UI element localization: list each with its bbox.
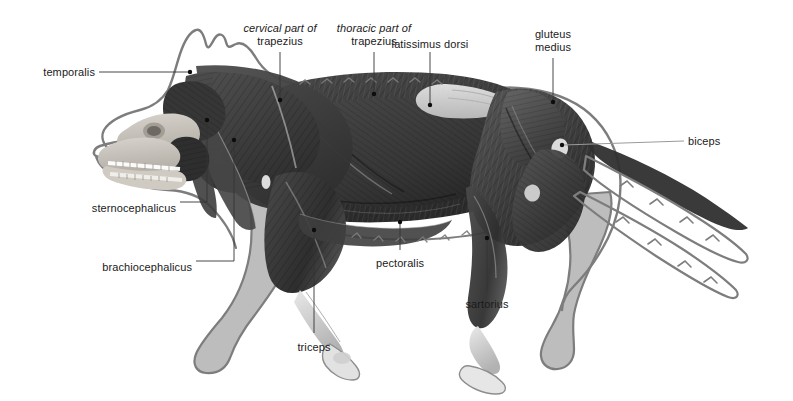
label-pectoralis: pectoralis — [362, 257, 438, 270]
dot-cervical-trapezius — [278, 98, 282, 102]
label-latissimus-dorsi: latissimus dorsi — [372, 38, 488, 51]
dot-brachiocephalicus — [232, 138, 236, 142]
label-gluteus-medius: gluteus medius — [512, 28, 594, 54]
label-brachiocephalicus: brachiocephalicus — [0, 261, 192, 274]
dot-pectoralis — [398, 220, 402, 224]
label-biceps: biceps — [688, 135, 720, 148]
dot-triceps — [312, 228, 316, 232]
dot-gluteus-medius — [551, 100, 555, 104]
dot-temporalis — [188, 70, 192, 74]
label-sternocephalicus: sternocephalicus — [0, 202, 176, 215]
anatomy-figure: temporalis cervical part of trapezius th… — [0, 0, 793, 401]
dot-biceps — [560, 143, 564, 147]
dot-sternocephalicus — [205, 118, 209, 122]
dot-sartorius — [485, 236, 489, 240]
label-thoracic-part-of-trapezius-italic: thoracic part of — [318, 22, 430, 35]
dot-latissimus-dorsi — [428, 103, 432, 107]
label-sartorius: sartorius — [452, 298, 522, 311]
dot-thoracic-trapezius — [372, 92, 376, 96]
label-gluteus-medius-line2: medius — [512, 41, 594, 54]
label-triceps: triceps — [280, 341, 348, 354]
dog-anatomy-illustration — [0, 0, 793, 401]
label-temporalis: temporalis — [0, 66, 95, 79]
label-gluteus-medius-line1: gluteus — [512, 28, 594, 41]
